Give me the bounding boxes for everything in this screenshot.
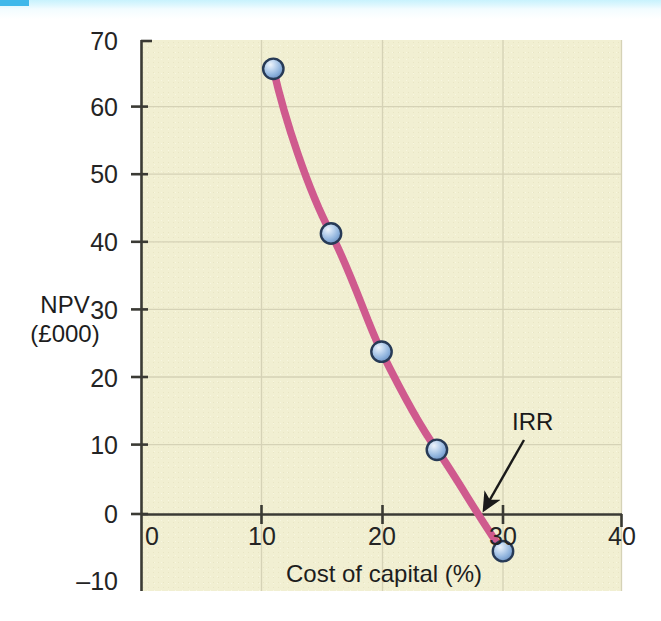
y-tick-label-20: 20 bbox=[62, 364, 118, 393]
y-axis-title: NPV (£000) bbox=[10, 290, 120, 349]
y-tick-label-minus-10: –10 bbox=[48, 567, 118, 596]
y-tick-label-50: 50 bbox=[62, 160, 118, 189]
x-tick-label-40: 40 bbox=[592, 522, 652, 551]
x-tick-label-0: 0 bbox=[122, 522, 182, 551]
irr-label: IRR bbox=[512, 408, 553, 436]
gridlines-horizontal bbox=[141, 107, 622, 445]
y-tick-label-0: 0 bbox=[62, 500, 118, 529]
y-axis-title-line2: (£000) bbox=[10, 319, 120, 348]
x-tick-label-30: 30 bbox=[473, 522, 533, 551]
y-tick-label-70: 70 bbox=[62, 27, 118, 56]
y-axis-spine bbox=[141, 40, 152, 591]
x-axis-title: Cost of capital (%) bbox=[286, 560, 482, 588]
y-axis-ticks bbox=[131, 107, 148, 514]
y-tick-label-60: 60 bbox=[62, 93, 118, 122]
x-tick-label-10: 10 bbox=[232, 522, 292, 551]
gridlines-vertical bbox=[262, 40, 622, 591]
y-axis-title-line1: NPV bbox=[10, 290, 120, 319]
y-tick-label-10: 10 bbox=[62, 431, 118, 460]
figure-root: 70 60 50 40 30 20 10 0 –10 0 10 20 30 40… bbox=[0, 0, 661, 621]
irr-arrow bbox=[484, 440, 524, 510]
x-tick-label-20: 20 bbox=[352, 522, 412, 551]
y-tick-label-40: 40 bbox=[62, 228, 118, 257]
